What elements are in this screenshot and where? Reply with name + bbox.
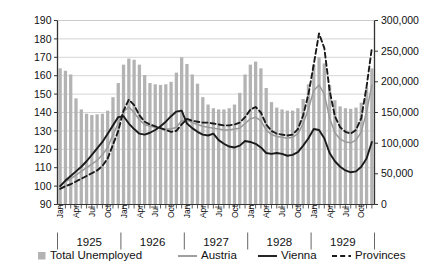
y-left-tick: 170 bbox=[34, 51, 52, 63]
bar bbox=[185, 64, 188, 204]
bar bbox=[169, 82, 172, 205]
bar bbox=[175, 73, 178, 205]
bar bbox=[249, 65, 252, 205]
y-left-tick: 190 bbox=[34, 14, 52, 26]
x-tick-label: Jul bbox=[87, 206, 97, 217]
y-right-tick: 50,000 bbox=[381, 167, 413, 179]
x-tick-label: Oct bbox=[356, 204, 366, 218]
bar bbox=[349, 109, 352, 205]
legend-label: Total Unemployed bbox=[50, 249, 142, 261]
year-label: 1929 bbox=[330, 236, 356, 248]
y-left-tick: 120 bbox=[34, 143, 52, 155]
x-tick-label: Apr bbox=[135, 205, 145, 218]
y-right-tick: 300,000 bbox=[381, 14, 419, 26]
bar bbox=[238, 93, 241, 205]
x-tick-label: Jul bbox=[150, 206, 160, 217]
x-tick-label: Oct bbox=[103, 204, 113, 218]
x-tick-label: Apr bbox=[325, 205, 335, 218]
bar bbox=[64, 71, 67, 205]
x-tick-label: Jan bbox=[246, 204, 256, 218]
bar bbox=[164, 84, 167, 204]
x-tick-label: Apr bbox=[261, 205, 271, 218]
y-right-tick: 0 bbox=[381, 198, 387, 210]
year-label: 1925 bbox=[76, 236, 102, 248]
x-tick-label: Oct bbox=[230, 204, 240, 218]
bar bbox=[122, 65, 125, 205]
bar bbox=[132, 60, 135, 205]
bar bbox=[206, 105, 209, 205]
bar bbox=[286, 111, 289, 205]
y-left-tick: 130 bbox=[34, 125, 52, 137]
x-tick-label: Jan bbox=[119, 204, 129, 218]
x-tick-label: Jul bbox=[277, 206, 287, 217]
bar bbox=[101, 114, 104, 205]
bar bbox=[80, 109, 83, 204]
bar bbox=[159, 85, 162, 205]
legend-label: Vienna bbox=[281, 249, 317, 261]
y-left-tick: 180 bbox=[34, 33, 52, 45]
x-tick-label: Jul bbox=[341, 206, 351, 217]
bar bbox=[323, 63, 326, 204]
bar bbox=[127, 59, 130, 205]
bar bbox=[243, 74, 246, 204]
bar bbox=[254, 62, 257, 205]
bar bbox=[191, 74, 194, 204]
y-right-tick: 150,000 bbox=[381, 106, 419, 118]
bar bbox=[201, 97, 204, 204]
x-tick-label: Apr bbox=[198, 205, 208, 218]
y-left-tick: 160 bbox=[34, 69, 52, 81]
bar bbox=[280, 109, 283, 204]
chart-canvas: 90100110120130140150160170180190 050,000… bbox=[0, 0, 438, 272]
bar bbox=[265, 88, 268, 205]
bar bbox=[148, 83, 151, 204]
x-tick-label: Jan bbox=[182, 204, 192, 218]
bar bbox=[90, 115, 93, 205]
year-label: 1926 bbox=[140, 236, 166, 248]
legend-swatch-total-unemployed bbox=[38, 252, 46, 260]
x-tick-label: Oct bbox=[166, 204, 176, 218]
bar bbox=[296, 108, 299, 204]
x-tick-label: Jan bbox=[55, 204, 65, 218]
legend-label: Austria bbox=[201, 249, 237, 261]
y-right-tick: 100,000 bbox=[381, 137, 419, 149]
x-tick-label: Oct bbox=[293, 204, 303, 218]
x-axis-tick-labels: JanAprJulOctJanAprJulOctJanAprJulOctJanA… bbox=[55, 204, 372, 218]
bar bbox=[143, 75, 146, 204]
y-left-tick: 100 bbox=[34, 180, 52, 192]
bar bbox=[233, 105, 236, 205]
x-tick-label: Apr bbox=[71, 205, 81, 218]
y-left-tick: 140 bbox=[34, 106, 52, 118]
y-right-tick: 200,000 bbox=[381, 75, 419, 87]
x-tick-label: Jan bbox=[309, 204, 319, 218]
bar bbox=[312, 65, 315, 205]
bar bbox=[328, 85, 331, 205]
bar bbox=[111, 97, 114, 204]
bar bbox=[154, 84, 157, 204]
bar bbox=[180, 57, 183, 204]
bar bbox=[291, 111, 294, 205]
bar bbox=[222, 109, 225, 204]
legend-label: Provinces bbox=[355, 249, 406, 261]
y-right-tick: 250,000 bbox=[381, 45, 419, 57]
y-left-tick: 110 bbox=[35, 161, 52, 173]
year-label: 1928 bbox=[267, 236, 293, 248]
bar bbox=[339, 106, 342, 204]
bar bbox=[196, 84, 199, 205]
bar bbox=[275, 108, 278, 205]
bar bbox=[354, 108, 357, 205]
bar bbox=[228, 108, 231, 204]
bar bbox=[259, 68, 262, 204]
year-label: 1927 bbox=[203, 236, 229, 248]
x-tick-label: Jul bbox=[214, 206, 224, 217]
bar bbox=[333, 100, 336, 204]
y-left-tick: 150 bbox=[34, 88, 52, 100]
unemployment-chart: 90100110120130140150160170180190 050,000… bbox=[0, 0, 438, 272]
bar bbox=[344, 108, 347, 204]
bar bbox=[117, 83, 120, 204]
y-left-tick: 90 bbox=[40, 198, 52, 210]
bar bbox=[74, 98, 77, 204]
